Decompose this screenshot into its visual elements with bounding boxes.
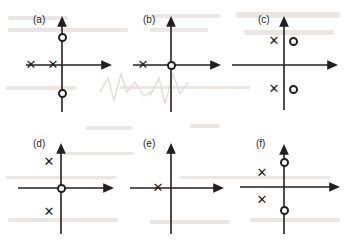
panel-f-axes	[0, 0, 354, 242]
zero-marker	[280, 206, 289, 215]
pole-zero-figure: (a) ✕ ✕ (b) ✕	[0, 0, 354, 242]
pole-marker: ✕	[256, 167, 268, 179]
pole-marker: ✕	[256, 194, 268, 206]
zero-marker	[280, 158, 289, 167]
